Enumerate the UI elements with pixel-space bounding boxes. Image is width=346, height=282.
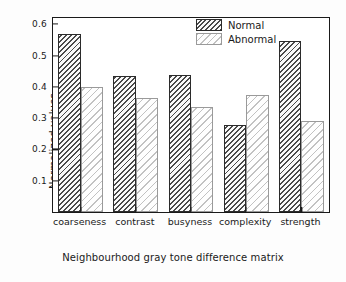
legend-item-normal: Normal <box>196 19 276 31</box>
chart-figure: Normalized values 0.10.20.30.40.50.6 Nor… <box>0 0 346 282</box>
plot-area: 0.10.20.30.40.50.6 <box>53 18 329 212</box>
y-tick-label: 0.2 <box>32 144 47 154</box>
legend-label-abnormal: Abnormal <box>228 34 276 45</box>
bar-complexity-normal <box>224 125 246 212</box>
legend-swatch-normal <box>196 19 222 31</box>
bar-coarseness-normal <box>58 34 80 212</box>
legend-label-normal: Normal <box>228 20 264 31</box>
bar-busyness-abnormal <box>191 107 213 212</box>
y-tick-label: 0.1 <box>32 176 47 186</box>
x-tick-label-coarseness: coarseness <box>53 216 106 227</box>
bar-contrast-abnormal <box>136 98 158 212</box>
bar-contrast-normal <box>113 76 135 212</box>
x-tick-mark <box>80 207 81 212</box>
x-tick-label-complexity: complexity <box>219 216 271 227</box>
x-tick-mark <box>301 207 302 212</box>
x-axis-title: Neighbourhood gray tone difference matri… <box>0 252 346 263</box>
x-tick-label-busyness: busyness <box>168 216 212 227</box>
y-tick-label: 0.4 <box>32 82 47 92</box>
plot-frame: 0.10.20.30.40.50.6 <box>52 17 330 213</box>
bar-coarseness-abnormal <box>81 87 103 212</box>
bar-strength-normal <box>279 41 301 212</box>
y-tick-mark <box>53 24 58 25</box>
bar-strength-abnormal <box>301 121 323 212</box>
x-tick-mark <box>190 207 191 212</box>
legend-swatch-abnormal <box>196 33 222 45</box>
bar-busyness-normal <box>169 75 191 212</box>
y-tick-label: 0.3 <box>32 113 47 123</box>
x-tick-label-strength: strength <box>280 216 320 227</box>
y-tick-label: 0.5 <box>32 51 47 61</box>
y-tick-label: 0.6 <box>32 19 47 29</box>
legend-item-abnormal: Abnormal <box>196 33 276 45</box>
chart-legend: Normal Abnormal <box>196 19 276 45</box>
x-tick-mark <box>135 207 136 212</box>
x-tick-mark <box>246 207 247 212</box>
x-tick-label-contrast: contrast <box>115 216 154 227</box>
bar-complexity-abnormal <box>246 95 268 212</box>
